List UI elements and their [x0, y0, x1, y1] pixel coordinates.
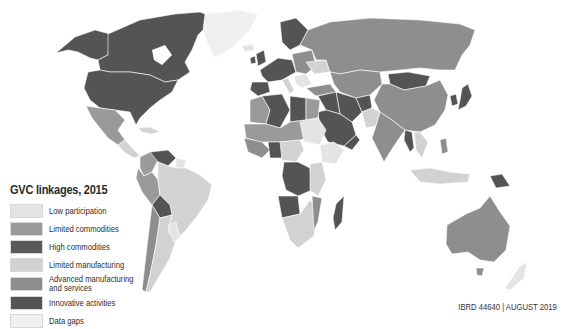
region-balkans — [294, 74, 312, 88]
region-japan — [458, 84, 472, 110]
region-mexico — [86, 106, 125, 145]
region-drc — [282, 162, 312, 196]
region-kenya-tanzania — [310, 162, 326, 196]
region-canada — [98, 12, 215, 82]
legend-label: Limited commodities — [49, 225, 119, 234]
legend-item-innovative-activities: Innovative activities — [10, 294, 180, 312]
region-central-america — [118, 140, 140, 158]
region-tasmania — [476, 268, 484, 276]
legend-item-advanced-manufacturing: Advanced manufacturing and services — [10, 274, 180, 294]
swatch-limited-commodities — [10, 222, 43, 236]
region-nigeria — [268, 142, 282, 158]
region-philippines — [440, 138, 448, 154]
legend-item-limited-commodities: Limited commodities — [10, 220, 180, 238]
swatch-innovative-activities — [10, 296, 43, 310]
legend-label: Data gaps — [49, 317, 84, 326]
region-central-africa — [280, 140, 304, 162]
legend-label: Innovative activities — [49, 299, 115, 308]
legend-label-line2: and services — [49, 283, 92, 293]
map-legend: GVC linkages, 2015 Low participation Lim… — [10, 182, 180, 329]
region-uk — [256, 50, 266, 66]
region-libya — [290, 96, 306, 122]
region-mozambique — [312, 196, 322, 230]
region-caribbean — [138, 127, 160, 134]
region-indonesia — [410, 168, 470, 184]
region-iceland — [242, 44, 255, 52]
legend-label: Limited manufacturing — [49, 261, 124, 270]
region-iberia — [250, 82, 270, 96]
region-alaska — [56, 30, 110, 60]
legend-item-data-gaps: Data gaps — [10, 312, 180, 329]
legend-item-high-commodities: High commodities — [10, 238, 180, 256]
legend-title: GVC linkages, 2015 — [10, 182, 155, 197]
legend-label: Advanced manufacturing and services — [49, 275, 134, 293]
region-myanmar — [404, 130, 414, 152]
region-italy — [282, 78, 294, 94]
legend-item-limited-manufacturing: Limited manufacturing — [10, 256, 180, 274]
map-credit: IBRD 44640 | AUGUST 2019 — [459, 302, 557, 312]
region-new-zealand — [505, 262, 527, 290]
swatch-low-participation — [10, 204, 43, 218]
region-madagascar — [333, 196, 344, 230]
region-egypt — [306, 98, 320, 120]
region-papua-new-guinea — [490, 174, 510, 188]
region-guianas — [176, 158, 186, 168]
legend-label: High commodities — [49, 243, 110, 252]
swatch-limited-manufacturing — [10, 258, 43, 272]
region-southeast-asia — [414, 132, 428, 158]
region-australia — [446, 196, 510, 262]
swatch-data-gaps — [10, 314, 43, 328]
legend-label: Low participation — [49, 207, 106, 216]
swatch-high-commodities — [10, 240, 43, 254]
swatch-advanced-manufacturing — [10, 277, 43, 291]
region-korea — [450, 94, 458, 106]
legend-item-low-participation: Low participation — [10, 202, 180, 220]
region-ireland — [250, 56, 256, 64]
